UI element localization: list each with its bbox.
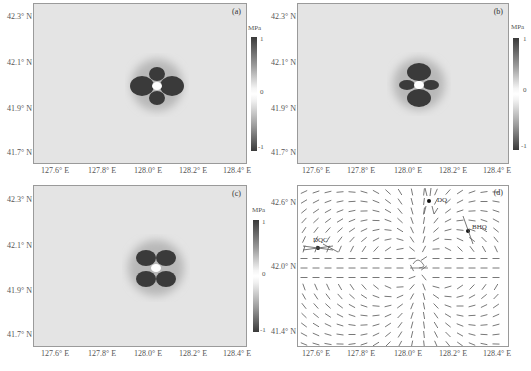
x-tick: 127.8° E	[347, 166, 375, 175]
y-tick: 41.7° N	[264, 148, 296, 157]
y-tick: 42.3° N	[0, 12, 32, 21]
x-tick: 128.4° E	[483, 349, 511, 358]
y-tick: 42.1° N	[264, 58, 296, 67]
y-tick: 41.7° N	[0, 330, 32, 339]
x-tick: 128.0° E	[134, 349, 162, 358]
x-tick: 128.4° E	[483, 166, 511, 175]
station-label-bhq: BHQ	[472, 223, 487, 231]
x-tick: 128.4° E	[223, 349, 251, 358]
stress-lobes-b	[298, 4, 508, 163]
y-tick: 42.6° N	[264, 198, 296, 207]
y-tick: 42.3° N	[264, 12, 296, 21]
y-tick: 41.9° N	[0, 104, 32, 113]
x-tick: 127.6° E	[41, 166, 69, 175]
y-tick: 41.9° N	[264, 104, 296, 113]
colorbar-a	[251, 37, 257, 151]
x-tick: 128.4° E	[223, 166, 251, 175]
colorbar-mid: 0	[260, 88, 264, 96]
colorbar-max: 1	[260, 35, 264, 43]
x-tick: 128.0° E	[394, 166, 422, 175]
y-tick: 42.0° N	[264, 262, 296, 271]
station-label-dqc: DQC	[313, 236, 328, 244]
y-tick: 42.3° N	[0, 195, 32, 204]
plot-area-b: (b)	[297, 3, 509, 164]
x-tick: 128.0° E	[394, 349, 422, 358]
colorbar-min: -1	[258, 143, 264, 151]
colorbar-b	[513, 38, 519, 150]
colorbar-unit: MPa	[511, 23, 524, 31]
x-tick: 128.2° E	[179, 349, 207, 358]
x-tick: 127.6° E	[302, 349, 330, 358]
colorbar-min: -1	[521, 142, 527, 150]
colorbar-max: 1	[523, 35, 527, 43]
station-label-dq: DQ	[437, 196, 447, 204]
plot-area-d: (d) DQ BHQ DQC	[297, 185, 509, 347]
colorbar-mid: 0	[523, 86, 527, 94]
y-tick: 42.1° N	[0, 58, 32, 67]
y-tick: 41.7° N	[0, 148, 32, 157]
panel-label-b: (b)	[494, 7, 503, 16]
colorbar-mid: 0	[262, 270, 266, 278]
plot-area-a: (a)	[33, 3, 247, 164]
x-tick: 127.8° E	[88, 349, 116, 358]
x-tick: 127.8° E	[347, 349, 375, 358]
plot-area-c: (c)	[33, 185, 247, 347]
x-tick: 127.6° E	[41, 349, 69, 358]
colorbar-unit: MPa	[248, 24, 261, 32]
panel-label-d: (d)	[494, 188, 503, 197]
stress-lobes-c	[34, 186, 246, 346]
x-tick: 128.2° E	[439, 349, 467, 358]
stress-lobes-a	[34, 4, 246, 163]
y-tick: 41.4° N	[264, 327, 296, 336]
stress-vector-field	[298, 186, 508, 346]
colorbar-max: 1	[262, 218, 266, 226]
x-tick: 128.2° E	[179, 166, 207, 175]
panel-label-a: (a)	[232, 7, 241, 16]
colorbar-c	[253, 220, 259, 332]
y-tick: 42.1° N	[0, 241, 32, 250]
colorbar-unit: MPa	[252, 206, 265, 214]
panel-label-c: (c)	[232, 189, 241, 198]
y-tick: 41.9° N	[0, 286, 32, 295]
x-tick: 127.8° E	[88, 166, 116, 175]
x-tick: 128.2° E	[439, 166, 467, 175]
x-tick: 128.0° E	[134, 166, 162, 175]
x-tick: 127.6° E	[302, 166, 330, 175]
